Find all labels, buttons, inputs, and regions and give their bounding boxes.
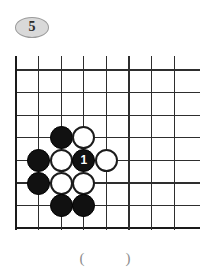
answer-caption: ( ) bbox=[0, 246, 210, 270]
stone-white-5-5[interactable] bbox=[95, 149, 118, 172]
stone-black-3-4[interactable] bbox=[50, 126, 73, 149]
board-col-line-2 bbox=[38, 56, 39, 230]
stone-black-4-7[interactable] bbox=[72, 194, 95, 217]
stone-black-move-1-4-5[interactable]: 1 bbox=[72, 149, 95, 172]
stone-white-4-4[interactable] bbox=[72, 126, 95, 149]
stone-move-number: 1 bbox=[80, 154, 87, 167]
stone-white-4-6[interactable] bbox=[72, 172, 95, 195]
board-col-line-8 bbox=[174, 56, 175, 230]
answer-blank-parentheses: ( ) bbox=[79, 250, 130, 267]
go-board[interactable]: 1 bbox=[0, 0, 210, 250]
stone-black-3-7[interactable] bbox=[50, 194, 73, 217]
stone-white-3-5[interactable] bbox=[50, 149, 73, 172]
stone-white-3-6[interactable] bbox=[50, 172, 73, 195]
stone-black-2-5[interactable] bbox=[27, 149, 50, 172]
diagram-page: 5 1 ( ) bbox=[0, 0, 210, 279]
board-col-line-6 bbox=[128, 56, 129, 230]
board-col-line-5 bbox=[106, 56, 107, 230]
board-col-line-1 bbox=[15, 56, 18, 230]
board-col-line-7 bbox=[151, 56, 152, 230]
stone-black-2-6[interactable] bbox=[27, 172, 50, 195]
